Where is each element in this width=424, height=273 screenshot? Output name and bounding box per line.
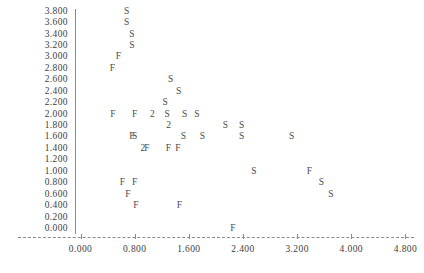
data-point-f: F [305, 167, 313, 177]
y-axis-tick-label: 0.200 [16, 213, 68, 223]
data-point-f: F [131, 178, 139, 188]
y-axis-tick-label: 0.000 [16, 224, 68, 234]
x-axis-line [18, 237, 414, 238]
y-axis-tick-label: 1.200 [16, 155, 68, 165]
y-axis-tick-label: 2.000 [16, 110, 68, 120]
x-axis-tick-mark [405, 234, 406, 239]
data-point-s: S [193, 110, 201, 120]
y-axis-tick-label: 3.800 [16, 7, 68, 17]
data-point-s: S [163, 110, 171, 120]
data-point-s: S [181, 110, 189, 120]
data-point-2: 2 [165, 121, 173, 131]
data-point-s: S [167, 75, 175, 85]
y-axis-tick-label: 2.400 [16, 87, 68, 97]
data-point-f: F [131, 110, 139, 120]
data-point-f: F [132, 201, 140, 211]
y-axis-tick-label: 2.600 [16, 75, 68, 85]
data-point-s: S [179, 132, 187, 142]
x-axis-tick-label: 3.200 [274, 245, 320, 255]
data-point-s: S [175, 87, 183, 97]
data-point-f: F [229, 224, 237, 234]
data-point-s: S [327, 190, 335, 200]
y-axis-tick-label: 1.000 [16, 167, 68, 177]
data-point-f: F [165, 144, 173, 154]
y-axis-tick-label: 0.800 [16, 178, 68, 188]
data-point-s: S [128, 30, 136, 40]
data-point-s: S [288, 132, 296, 142]
data-point-f: F [114, 52, 122, 62]
x-axis-tick-mark [135, 234, 136, 239]
x-axis-tick-label: 2.400 [220, 245, 266, 255]
data-point-f: F [124, 190, 132, 200]
scatter-plot: 3.8003.6003.4003.2003.0002.8002.6002.400… [0, 0, 424, 273]
data-point-s: S [238, 132, 246, 142]
y-axis-tick-label: 3.000 [16, 52, 68, 62]
data-point-f: F [128, 132, 136, 142]
data-point-f: F [118, 178, 126, 188]
x-axis-tick-label: 4.000 [328, 245, 374, 255]
data-point-s: S [318, 178, 326, 188]
data-point-s: S [250, 167, 258, 177]
x-axis-tick-mark [351, 234, 352, 239]
data-point-s: S [128, 41, 136, 51]
data-point-2: 2 [148, 110, 156, 120]
data-point-f: F [174, 144, 182, 154]
x-axis-tick-label: 0.000 [58, 245, 104, 255]
x-axis-tick-label: 4.800 [382, 245, 424, 255]
data-point-s: S [238, 121, 246, 131]
y-axis-line [75, 9, 76, 234]
x-axis-tick-mark [81, 234, 82, 239]
x-axis-tick-label: 0.800 [112, 245, 158, 255]
data-point-s: S [161, 98, 169, 108]
data-point-s: S [221, 121, 229, 131]
y-axis-tick-label: 0.400 [16, 201, 68, 211]
y-axis-tick-label: 3.200 [16, 41, 68, 51]
data-point-f: F [175, 201, 183, 211]
x-axis-tick-mark [243, 234, 244, 239]
x-axis-tick-mark [297, 234, 298, 239]
y-axis-tick-label: 1.400 [16, 144, 68, 154]
data-point-f: F [108, 64, 116, 74]
y-axis-tick-label: 3.600 [16, 18, 68, 28]
y-axis-tick-label: 2.800 [16, 64, 68, 74]
data-point-2: 2 [139, 144, 147, 154]
data-point-s: S [123, 18, 131, 28]
y-axis-tick-label: 2.200 [16, 98, 68, 108]
y-axis-tick-label: 1.800 [16, 121, 68, 131]
y-axis-tick-label: 3.400 [16, 30, 68, 40]
y-axis-tick-label: 0.600 [16, 190, 68, 200]
data-point-s: S [123, 7, 131, 17]
data-point-s: S [198, 132, 206, 142]
x-axis-tick-mark [189, 234, 190, 239]
data-point-f: F [109, 110, 117, 120]
x-axis-tick-label: 1.600 [166, 245, 212, 255]
y-axis-tick-label: 1.600 [16, 132, 68, 142]
